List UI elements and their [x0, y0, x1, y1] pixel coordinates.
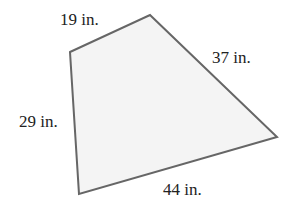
side-label-top: 19 in.: [60, 11, 99, 28]
side-label-right: 37 in.: [212, 49, 251, 66]
quadrilateral-diagram: [0, 0, 290, 206]
quadrilateral-shape: [70, 15, 277, 194]
side-label-left: 29 in.: [19, 113, 58, 130]
side-label-bottom: 44 in.: [163, 181, 202, 198]
